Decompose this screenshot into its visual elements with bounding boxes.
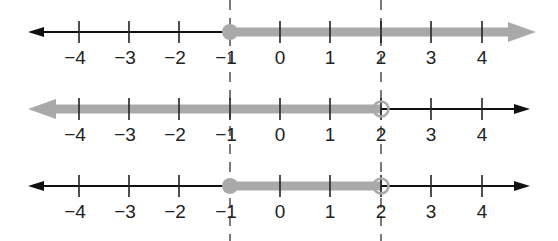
tick-labels: −4 −3 −2 −1 0 1 2 3 4: [64, 47, 488, 68]
number-line-diagram: −4 −3 −2 −1 0 1 2 3 4 −4 −3 −2 −1 0 1: [0, 0, 558, 241]
closed-endpoint-icon: [222, 178, 238, 194]
tick-label: 4: [477, 47, 488, 68]
tick-label: 2: [376, 124, 387, 145]
tick-label: −4: [64, 47, 86, 68]
tick-label: 2: [376, 47, 387, 68]
tick-labels: −4 −3 −2 −1 0 1 2 3 4: [64, 124, 488, 145]
tick-label: −2: [164, 47, 186, 68]
tick-label: 1: [325, 201, 336, 222]
tick-label: 2: [376, 201, 387, 222]
tick-label: 0: [275, 47, 286, 68]
tick-label: −1: [215, 47, 237, 68]
tick-label: 3: [426, 124, 437, 145]
number-line-2: −4 −3 −2 −1 0 1 2 3 4: [28, 98, 530, 145]
tick-label: 3: [426, 201, 437, 222]
tick-label: −1: [215, 124, 237, 145]
tick-label: 4: [477, 201, 488, 222]
left-arrow-icon: [28, 99, 56, 119]
right-arrow-icon: [514, 181, 530, 191]
tick-label: 1: [325, 47, 336, 68]
tick-label: −3: [114, 124, 136, 145]
tick-label: 3: [426, 47, 437, 68]
tick-label: 1: [325, 124, 336, 145]
tick-label: −2: [164, 124, 186, 145]
tick-label: −3: [114, 47, 136, 68]
tick-label: 0: [275, 124, 286, 145]
tick-label: −1: [215, 201, 237, 222]
closed-endpoint-icon: [222, 24, 238, 40]
tick-labels: −4 −3 −2 −1 0 1 2 3 4: [64, 201, 488, 222]
tick-label: −4: [64, 201, 86, 222]
right-arrow-icon: [514, 104, 530, 114]
left-arrow-icon: [28, 27, 44, 37]
left-arrow-icon: [28, 181, 44, 191]
tick-label: 0: [275, 201, 286, 222]
open-endpoint-icon: [374, 179, 389, 194]
number-line-1: −4 −3 −2 −1 0 1 2 3 4: [28, 21, 536, 68]
number-line-3: −4 −3 −2 −1 0 1 2 3 4: [28, 175, 530, 222]
tick-label: −3: [114, 201, 136, 222]
tick-label: 4: [477, 124, 488, 145]
right-arrow-icon: [508, 22, 536, 42]
tick-label: −4: [64, 124, 86, 145]
tick-label: −2: [164, 201, 186, 222]
